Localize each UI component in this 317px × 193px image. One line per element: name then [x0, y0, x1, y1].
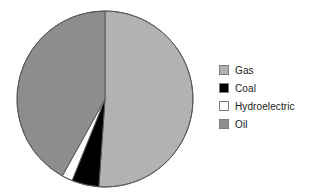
- legend-item-oil[interactable]: Oil: [219, 118, 317, 130]
- legend-label-hydroelectric: Hydroelectric: [235, 101, 295, 112]
- legend-swatch-hydroelectric: [219, 101, 229, 111]
- pie-slice-group: [17, 11, 193, 187]
- pie-chart-svg: [0, 0, 205, 193]
- legend-item-coal[interactable]: Coal: [219, 82, 317, 94]
- chart-legend: Gas Coal Hydroelectric Oil: [219, 64, 317, 130]
- legend-swatch-oil: [219, 119, 229, 129]
- legend-label-coal: Coal: [235, 83, 256, 94]
- legend-item-hydroelectric[interactable]: Hydroelectric: [219, 100, 317, 112]
- legend-swatch-coal: [219, 83, 229, 93]
- pie-chart-plot-area: [0, 0, 205, 193]
- legend-item-gas[interactable]: Gas: [219, 64, 317, 76]
- legend-label-gas: Gas: [235, 65, 254, 76]
- pie-chart-figure: Gas Coal Hydroelectric Oil: [0, 0, 317, 193]
- pie-slice-gas[interactable]: [99, 11, 193, 187]
- legend-label-oil: Oil: [235, 119, 248, 130]
- legend-swatch-gas: [219, 65, 229, 75]
